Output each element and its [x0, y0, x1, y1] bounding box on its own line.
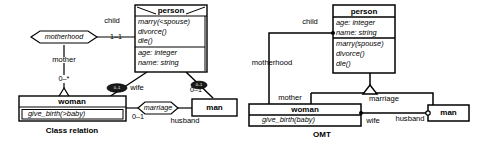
right-man-name: man [440, 108, 457, 117]
right-label-wife: wife [365, 116, 380, 125]
right-person-operation-2: die() [336, 59, 351, 68]
right-label-marriage: marriage [369, 94, 399, 103]
right-marker-child-dot [331, 31, 335, 35]
right-label-husband: husband [395, 114, 424, 123]
right-woman-operation-0: give_birth(baby) [262, 115, 316, 124]
right-woman-name: woman [290, 105, 319, 114]
right-person-operation-1: divorce() [336, 49, 365, 58]
right-person-name: person [351, 7, 378, 16]
right-marker-husband-circle [426, 111, 430, 115]
right-person-attribute-1: name: string [336, 28, 378, 37]
diagram-canvas: person marry(<spouse) divorce() die() ag… [0, 0, 479, 147]
right-person-operation-0: marry(spouse) [336, 39, 384, 48]
right-label-mother: mother [278, 93, 302, 102]
right-person-attribute-0: age: integer [336, 18, 376, 27]
right-woman-class[interactable]: woman give_birth(baby) [249, 104, 361, 126]
right-marker-wife-dot [359, 111, 363, 115]
right-generalization-triangle [363, 85, 377, 94]
right-label-motherhood: motherhood [252, 58, 293, 67]
right-man-class[interactable]: man [428, 105, 469, 121]
right-label-child: child [302, 17, 318, 26]
right-person-class[interactable]: person age: integer name: string marry(s… [333, 5, 395, 73]
right-diagram: person age: integer name: string marry(s… [0, 0, 479, 147]
right-diagram-caption: OMT [313, 130, 331, 139]
